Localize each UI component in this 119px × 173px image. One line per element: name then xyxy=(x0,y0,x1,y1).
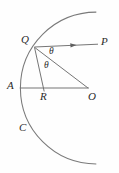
point-label-r: R xyxy=(40,91,47,102)
point-label-q: Q xyxy=(21,34,29,45)
point-label-a: A xyxy=(7,80,14,91)
curve-label-c: C xyxy=(19,122,26,133)
ray-p-to-q xyxy=(35,44,99,47)
point-label-p: P xyxy=(101,36,108,47)
point-label-o: O xyxy=(88,91,96,102)
figure-canvas xyxy=(0,0,119,173)
geometry-figure: Q P A R O C θ θ xyxy=(0,0,119,173)
angle-label-theta-upper: θ xyxy=(49,47,54,57)
angle-label-theta-lower: θ xyxy=(44,61,49,71)
